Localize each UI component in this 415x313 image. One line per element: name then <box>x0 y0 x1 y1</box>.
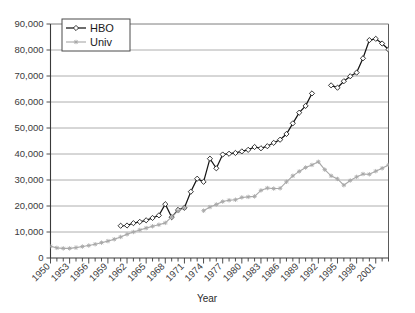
marker-univ-1987 <box>284 180 288 184</box>
marker-univ-1956 <box>87 243 91 247</box>
x-tick-label-1959: 1959 <box>87 261 110 284</box>
plot-frame <box>51 24 389 258</box>
y-tick-label-40000: 40,000 <box>14 148 43 159</box>
y-tick-label-70000: 70,000 <box>14 70 43 81</box>
marker-univ-1952 <box>61 246 65 250</box>
marker-hbo-1985 <box>271 140 276 145</box>
marker-univ-1974 <box>201 208 205 212</box>
legend-label-univ: Univ <box>90 36 113 48</box>
marker-univ-1984 <box>265 186 269 190</box>
marker-univ-1954 <box>74 245 78 249</box>
marker-univ-1999 <box>361 172 365 176</box>
marker-hbo-1967 <box>156 213 161 218</box>
series-hbo <box>118 36 391 228</box>
marker-hbo-1994 <box>329 83 334 88</box>
marker-univ-2000 <box>367 172 371 176</box>
marker-univ-1992 <box>316 160 320 164</box>
marker-univ-1993 <box>323 167 327 171</box>
marker-hbo-1972 <box>188 189 193 194</box>
marker-hbo-1977 <box>220 152 225 157</box>
marker-univ-1957 <box>93 242 97 246</box>
marker-hbo-1961 <box>118 223 123 228</box>
marker-univ-1997 <box>348 178 352 182</box>
y-tick-label-50000: 50,000 <box>14 122 43 133</box>
marker-univ-1969 <box>169 215 173 219</box>
marker-hbo-1964 <box>137 219 142 224</box>
x-tick-label-2001: 2001 <box>354 261 377 284</box>
x-tick-label-1956: 1956 <box>67 261 90 284</box>
x-tick-label-1977: 1977 <box>201 261 224 284</box>
x-tick-label-1992: 1992 <box>297 261 320 284</box>
y-tick-label-60000: 60,000 <box>14 96 43 107</box>
y-tick-label-80000: 80,000 <box>14 44 43 55</box>
x-tick-label-1986: 1986 <box>259 261 282 284</box>
marker-univ-1959 <box>106 239 110 243</box>
marker-hbo-1979 <box>233 150 238 155</box>
marker-univ-1990 <box>303 165 307 169</box>
marker-univ-1958 <box>99 240 103 244</box>
marker-hbo-2000 <box>367 38 372 43</box>
marker-univ-1998 <box>354 175 358 179</box>
x-tick-label-1962: 1962 <box>106 261 129 284</box>
marker-hbo-1998 <box>354 70 359 75</box>
x-tick-label-1950: 1950 <box>29 261 52 284</box>
marker-univ-1971 <box>182 206 186 210</box>
marker-univ-1978 <box>227 198 231 202</box>
marker-hbo-1963 <box>131 221 136 226</box>
marker-univ-1981 <box>246 195 250 199</box>
marker-univ-1991 <box>310 163 314 167</box>
marker-univ-1980 <box>240 195 244 199</box>
x-tick-label-1980: 1980 <box>221 261 244 284</box>
marker-univ-1960 <box>112 237 116 241</box>
marker-hbo-1983 <box>258 146 263 151</box>
y-tick-label-90000: 90,000 <box>14 18 43 29</box>
x-tick-label-1989: 1989 <box>278 261 301 284</box>
marker-univ-1965 <box>144 226 148 230</box>
marker-univ-1950 <box>48 244 52 248</box>
marker-univ-1955 <box>80 244 84 248</box>
marker-univ-1966 <box>150 224 154 228</box>
x-tick-label-1968: 1968 <box>144 261 167 284</box>
marker-univ-1977 <box>220 199 224 203</box>
line-chart: 010,00020,00030,00040,00050,00060,00070,… <box>0 0 415 313</box>
marker-univ-1970 <box>176 209 180 213</box>
marker-univ-1989 <box>297 169 301 173</box>
y-tick-label-10000: 10,000 <box>14 226 43 237</box>
marker-univ-1962 <box>125 232 129 236</box>
y-axis-ticks <box>47 24 51 258</box>
marker-univ-1985 <box>272 186 276 190</box>
marker-hbo-1966 <box>150 215 155 220</box>
marker-hbo-1991 <box>309 91 314 96</box>
marker-univ-1983 <box>259 188 263 192</box>
marker-univ-2002 <box>380 166 384 170</box>
marker-univ-1967 <box>157 223 161 227</box>
marker-hbo-1982 <box>252 144 257 149</box>
x-tick-label-1974: 1974 <box>182 261 205 284</box>
x-tick-label-1965: 1965 <box>125 261 148 284</box>
y-tick-label-30000: 30,000 <box>14 174 43 185</box>
marker-hbo-1981 <box>246 147 251 152</box>
x-tick-label-1995: 1995 <box>316 261 339 284</box>
marker-univ-1982 <box>252 194 256 198</box>
x-axis-title: Year <box>197 293 218 304</box>
chart-container: 010,00020,00030,00040,00050,00060,00070,… <box>0 0 415 313</box>
gridlines-group <box>51 24 389 232</box>
marker-hbo-1962 <box>124 223 129 228</box>
marker-hbo-1978 <box>226 151 231 156</box>
x-tick-label-1983: 1983 <box>240 261 263 284</box>
x-tick-label-1953: 1953 <box>48 261 71 284</box>
x-tick-label-1998: 1998 <box>335 261 358 284</box>
x-tick-label-1971: 1971 <box>163 261 186 284</box>
data-series-group <box>48 36 391 250</box>
marker-univ-1961 <box>118 235 122 239</box>
marker-univ-1953 <box>67 246 71 250</box>
legend-label-hbo: HBO <box>90 22 114 34</box>
marker-univ-1988 <box>291 174 295 178</box>
series-hbo-segment-1 <box>331 39 388 88</box>
series-univ <box>48 160 390 251</box>
marker-univ-2003 <box>386 163 390 167</box>
marker-univ-1986 <box>278 186 282 190</box>
series-univ-segment-1 <box>204 162 389 211</box>
marker-hbo-1980 <box>239 149 244 154</box>
series-univ-segment-0 <box>51 208 185 248</box>
